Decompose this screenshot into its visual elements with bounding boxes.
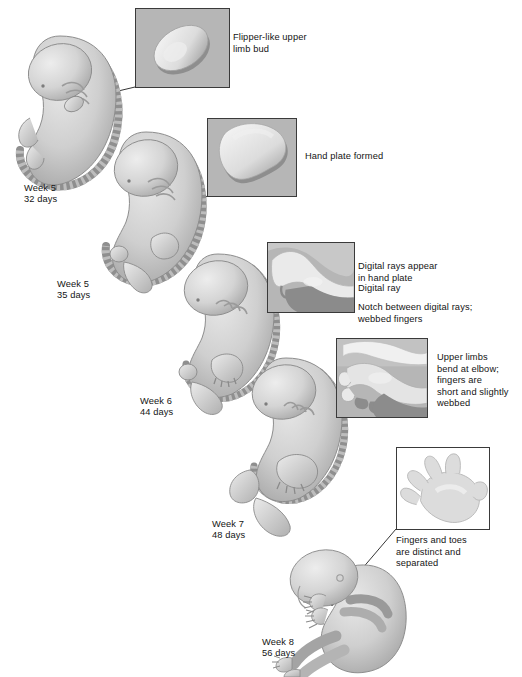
inset-digital-rays-art (268, 243, 354, 312)
annotation-notch-webbed: Notch between digital rays; webbed finge… (358, 302, 472, 325)
stage-label-week8-56days: Week 8 56 days (262, 637, 295, 660)
stage-label-week5-32days: Week 5 32 days (24, 183, 57, 206)
inset-hand (396, 447, 490, 530)
inset-limb-bud-art (136, 9, 229, 87)
inset-hand-plate (207, 118, 297, 197)
embryo-week7-48days (230, 358, 345, 536)
annotation-flipper-limb-bud: Flipper-like upper limb bud (233, 32, 307, 55)
inset-hand-art (397, 448, 489, 529)
inset-bent-elbow-art (337, 339, 427, 417)
annotation-digital-rays: Digital rays appear in hand plate (358, 261, 437, 284)
inset-limb-bud (135, 8, 230, 88)
annotation-fingers-toes: Fingers and toes are distinct and separa… (396, 535, 467, 570)
stage-label-week6-44days: Week 6 44 days (140, 396, 173, 419)
embryo-week5-32days (19, 35, 119, 186)
inset-digital-rays (267, 242, 355, 313)
inset-bent-elbow (336, 338, 428, 418)
embryo-week5-35days (106, 132, 203, 293)
annotation-digital-ray: Digital ray (358, 283, 400, 295)
inset-hand-plate-art (208, 119, 296, 196)
embryology-limb-development-figure: Week 5 32 days Week 5 35 days Week 6 44 … (0, 0, 522, 677)
stage-label-week7-48days: Week 7 48 days (212, 519, 245, 542)
annotation-upper-limbs-bend: Upper limbs bend at elbow; fingers are s… (437, 352, 509, 410)
stage-label-week5-35days: Week 5 35 days (57, 279, 90, 302)
embryo-illustrations-layer (0, 0, 522, 677)
annotation-hand-plate-formed: Hand plate formed (305, 151, 383, 163)
